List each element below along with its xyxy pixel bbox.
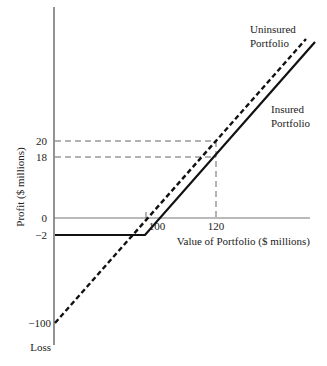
y-tick-neg100: −100: [28, 317, 51, 329]
x-tick-100: 100: [149, 220, 166, 232]
x-tick-120: 120: [208, 220, 225, 232]
y-tick-18: 18: [36, 151, 48, 163]
insured-label-line2: Portfolio: [271, 117, 311, 129]
uninsured-label-line1: Uninsured: [250, 23, 296, 35]
x-axis-label: Value of Portfolio ($ millions): [177, 235, 311, 248]
insured-label-line1: Insured: [271, 103, 304, 115]
y-axis-label: Profit ($ millions): [14, 147, 27, 227]
loss-label: Loss: [30, 341, 51, 353]
insured-line: [55, 42, 315, 235]
y-tick-0: 0: [42, 212, 48, 224]
payoff-chart: 20 18 0 −2 −100 Loss 100 120 Value of Po…: [0, 0, 327, 366]
y-tick-20: 20: [36, 135, 48, 147]
y-tick-neg2: −2: [35, 229, 47, 241]
uninsured-label-line2: Portfolio: [250, 37, 290, 49]
uninsured-line: [55, 39, 306, 323]
